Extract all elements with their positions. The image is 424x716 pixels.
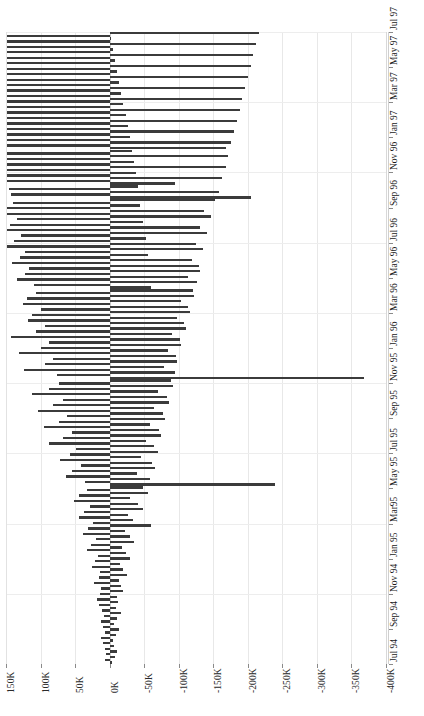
bar [110, 311, 190, 313]
bar [110, 295, 194, 297]
bar [49, 341, 110, 343]
bar [110, 366, 165, 368]
bar [6, 51, 110, 53]
bar [81, 464, 110, 466]
bar [41, 347, 109, 349]
bar [95, 560, 110, 562]
bar [110, 612, 121, 614]
bar [87, 489, 110, 491]
date-tick [389, 32, 393, 33]
bar [6, 95, 110, 97]
bar [6, 174, 110, 176]
bar [72, 470, 109, 472]
bar [49, 442, 110, 444]
bar [110, 281, 197, 283]
bar [7, 180, 110, 182]
bar [6, 139, 110, 141]
bar-series [6, 32, 386, 664]
date-tick [389, 313, 393, 314]
bar [6, 144, 110, 146]
value-tick-label: 100K [41, 647, 51, 693]
bar [100, 593, 110, 595]
date-tick [389, 629, 393, 630]
bar [6, 73, 110, 75]
bar [110, 390, 158, 392]
bar [93, 522, 110, 524]
bar [110, 360, 178, 362]
bar [6, 117, 110, 119]
bar [110, 596, 117, 598]
bar [110, 557, 131, 559]
date-tick [389, 559, 393, 560]
bar [110, 579, 119, 581]
bar [110, 396, 167, 398]
bar [63, 399, 109, 401]
bar [105, 631, 109, 633]
bar [110, 114, 126, 116]
bar [12, 262, 110, 264]
bar [110, 161, 134, 163]
bar [110, 276, 188, 278]
bar [36, 330, 109, 332]
bar [110, 81, 120, 83]
bar [110, 429, 159, 431]
bar [110, 300, 181, 302]
bar [67, 415, 109, 417]
bar [110, 407, 154, 409]
bar [20, 256, 110, 258]
bar [17, 278, 110, 280]
bar [32, 393, 109, 395]
bar [6, 213, 110, 215]
bar [110, 221, 143, 223]
bar [110, 125, 128, 127]
bar [36, 292, 110, 294]
bar [85, 481, 110, 483]
bar [110, 574, 127, 576]
bar [101, 620, 110, 622]
bar [110, 70, 118, 72]
value-axis: 150K100K50K0K-50K-100K-150K-200K-250K-30… [0, 664, 424, 716]
bar [110, 371, 176, 373]
bar [110, 503, 138, 505]
bar [110, 530, 125, 532]
bar [110, 617, 118, 619]
bar [6, 207, 110, 209]
bar [6, 100, 110, 102]
bar [105, 659, 109, 661]
bar [91, 544, 110, 546]
bar [7, 245, 109, 247]
bar [110, 43, 256, 45]
value-tick-label: 0K [110, 647, 120, 693]
bar [110, 514, 128, 516]
bar [10, 224, 109, 226]
date-tick [389, 453, 393, 454]
bar [6, 169, 110, 171]
bar [110, 147, 226, 149]
bar [6, 128, 110, 130]
bar [19, 352, 110, 354]
bar [6, 68, 110, 70]
value-tick-label: 50K [75, 647, 85, 693]
bar [110, 327, 186, 329]
bar [110, 177, 223, 179]
bar [6, 89, 110, 91]
bar [32, 314, 109, 316]
bar [110, 54, 254, 56]
bar [110, 232, 207, 234]
bar [99, 576, 110, 578]
bar [88, 527, 109, 529]
bar [110, 338, 180, 340]
date-tick-label: Jul 97 [389, 0, 399, 30]
bar [110, 445, 154, 447]
bar [110, 59, 116, 61]
value-tick-label: -250K [282, 647, 292, 693]
bar [6, 158, 110, 160]
bar [74, 500, 110, 502]
bar [110, 109, 240, 111]
bar [110, 385, 174, 387]
bar [110, 237, 146, 239]
bar [53, 404, 110, 406]
bar [6, 106, 110, 108]
bar [110, 120, 237, 122]
bar [110, 451, 158, 453]
